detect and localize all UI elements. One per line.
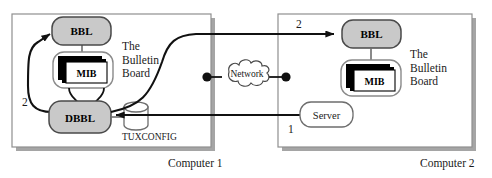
architecture-diagram: MIB The Bulletin Board DBBL TUXCONFIG BB [0, 0, 492, 178]
diagram-canvas: MIB The Bulletin Board DBBL TUXCONFIG BB [0, 0, 492, 178]
step-label-left-2: 2 [22, 96, 28, 108]
network-label: Network [230, 69, 263, 79]
c1-tuxconfig-label: TUXCONFIG [122, 132, 177, 142]
network-right-endpoint-dot [281, 72, 290, 81]
c2-bb-line-3: Board [410, 75, 438, 87]
computer-1-caption: Computer 1 [168, 157, 223, 170]
c1-bb-line-2: Bulletin [122, 54, 159, 66]
c1-bb-line-1: The [122, 40, 140, 52]
c1-bbl-label: BBL [70, 25, 92, 37]
c2-mib-label: MIB [365, 76, 385, 87]
c1-mib-label: MIB [77, 68, 97, 79]
step-label-right-2: 2 [296, 18, 302, 30]
c1-bb-line-3: Board [122, 67, 150, 79]
c2-server-label: Server [313, 110, 341, 121]
c1-dbbl-label: DBBL [65, 112, 95, 124]
step-label-server-1: 1 [288, 123, 294, 135]
c2-bb-line-1: The [410, 48, 428, 60]
c2-bb-line-2: Bulletin [410, 62, 447, 74]
computer-2-caption: Computer 2 [420, 157, 475, 170]
network-left-endpoint-dot [202, 72, 211, 81]
c2-bbl-label: BBL [360, 28, 382, 40]
